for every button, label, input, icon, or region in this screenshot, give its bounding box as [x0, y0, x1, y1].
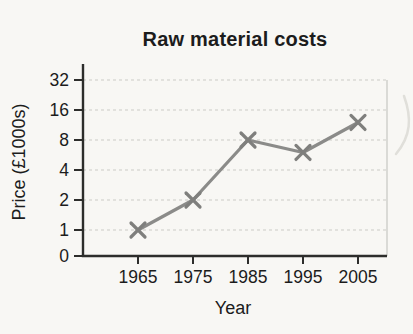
y-tick-label: 4	[59, 160, 69, 180]
plot-area: 01248163219651975198519952005	[0, 0, 413, 334]
x-axis-title: Year	[83, 298, 383, 319]
y-tick-label: 32	[50, 70, 69, 90]
y-tick-label: 8	[59, 130, 69, 150]
y-tick-label: 1	[59, 220, 69, 240]
y-tick-label: 16	[50, 100, 69, 120]
page-curl-artifact	[396, 96, 409, 154]
x-tick-label: 1995	[284, 267, 323, 287]
x-tick-label: 2005	[339, 267, 378, 287]
x-tick-label: 1975	[174, 267, 213, 287]
chart-figure: Raw material costs Price (£1000s) 012481…	[0, 0, 413, 334]
y-tick-label: 0	[59, 246, 69, 266]
x-tick-label: 1985	[229, 267, 268, 287]
x-tick-label: 1965	[119, 267, 158, 287]
y-tick-label: 2	[59, 190, 69, 210]
